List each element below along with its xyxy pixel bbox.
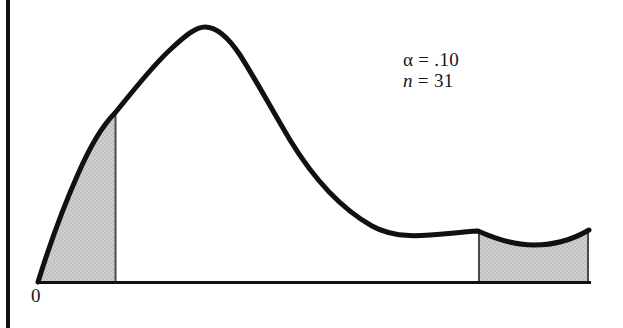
left-tail-rejection-region	[38, 113, 116, 282]
page-rule-line	[6, 0, 10, 328]
chi-square-distribution-chart	[0, 0, 623, 328]
chi-square-density-curve	[38, 27, 589, 282]
figure-root: α = .10 n = 31 0	[0, 0, 623, 328]
